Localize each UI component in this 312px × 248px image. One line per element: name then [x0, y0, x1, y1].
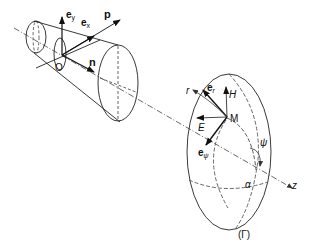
E-label: E	[198, 122, 205, 133]
H-arrow	[226, 87, 227, 117]
E-arrow	[197, 117, 227, 118]
p-label: p	[104, 8, 111, 20]
r-arrow	[193, 90, 227, 117]
surface-vectors	[193, 87, 292, 188]
origin-label: O	[55, 62, 63, 73]
M-label: M	[230, 113, 238, 124]
er-label: er	[207, 82, 216, 94]
surface-gamma-label: (Γ)	[238, 229, 250, 240]
epsi-label: eψ	[198, 147, 209, 160]
epsi-arrow	[206, 117, 227, 145]
r-label: r	[186, 85, 190, 96]
ex-label: ex	[81, 17, 91, 29]
n-label: n	[89, 56, 96, 68]
p-arrow	[62, 20, 120, 55]
horn-ellipsoid-diagram: ey ex p n O r er H M E eψ ψ α z (Γ)	[0, 0, 312, 248]
z-axis-label: z	[291, 180, 297, 191]
horn	[26, 21, 138, 122]
ey-label: ey	[66, 9, 76, 22]
horn-back-aperture	[26, 21, 46, 53]
H-label: H	[229, 89, 237, 100]
main-axis	[14, 28, 292, 188]
psi-label: ψ	[260, 137, 268, 148]
alpha-label: α	[245, 179, 251, 190]
